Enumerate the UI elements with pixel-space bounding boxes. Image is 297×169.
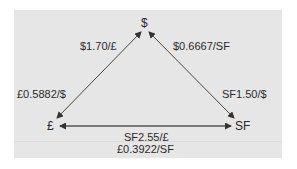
rate-pound-per-franc: £0.3922/SF — [117, 143, 174, 155]
node-franc: SF — [235, 120, 250, 132]
rate-franc-per-dollar: SF1.50/$ — [222, 88, 267, 100]
rate-dollar-per-franc: $0.6667/SF — [173, 40, 230, 52]
rate-pound-per-dollar: £0.5882/$ — [17, 88, 66, 100]
rate-dollar-per-pound: $1.70/£ — [80, 40, 117, 52]
rate-franc-per-pound: SF2.55/£ — [124, 131, 169, 143]
node-dollar: $ — [141, 17, 148, 29]
node-pound: £ — [47, 120, 54, 132]
